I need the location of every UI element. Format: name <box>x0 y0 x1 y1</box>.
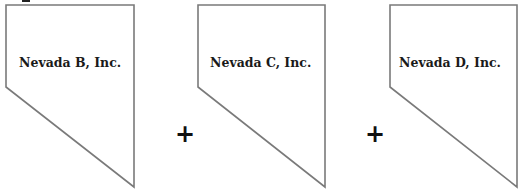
entity-label: Nevada C, Inc. <box>210 55 311 70</box>
cropped-text-fragment <box>22 0 30 2</box>
entity-label: Nevada B, Inc. <box>19 55 121 70</box>
entity-nevada-b: Nevada B, Inc. <box>6 5 134 187</box>
plus-operator: + <box>175 120 195 148</box>
nevada-shape-icon <box>6 5 134 187</box>
entity-nevada-d: Nevada D, Inc. <box>390 5 517 187</box>
nevada-shape-icon <box>390 5 517 187</box>
entity-nevada-c: Nevada C, Inc. <box>198 5 325 187</box>
entity-label: Nevada D, Inc. <box>399 55 501 70</box>
nevada-shape-icon <box>198 5 325 187</box>
diagram-canvas: Nevada B, Inc. + Nevada C, Inc. + Nevada… <box>0 0 522 193</box>
plus-operator: + <box>365 120 385 148</box>
